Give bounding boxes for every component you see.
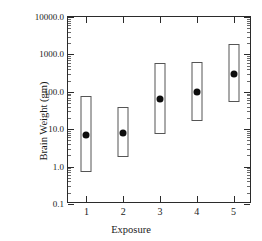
y-axis-minor-tick [247, 111, 250, 112]
y-axis-minor-tick [247, 178, 250, 179]
y-axis-minor-tick [247, 118, 250, 119]
y-axis-minor-tick [247, 186, 250, 187]
y-axis-tick-label: 10000.0 [35, 13, 64, 22]
y-axis-tick-mark [244, 92, 250, 93]
y-axis-minor-tick [247, 168, 250, 169]
y-axis-minor-tick [68, 95, 71, 96]
y-axis-minor-tick [247, 95, 250, 96]
y-axis-minor-tick [247, 28, 250, 29]
y-axis-minor-tick [68, 28, 71, 29]
y-axis-minor-tick [68, 149, 71, 150]
y-axis-minor-tick [247, 63, 250, 64]
y-axis-minor-tick [247, 98, 250, 99]
y-axis-minor-tick [247, 133, 250, 134]
y-axis-tick-mark [244, 167, 250, 168]
y-axis-minor-tick [247, 25, 250, 26]
x-axis-tick-mark [86, 17, 87, 23]
y-axis-tick-mark [68, 92, 74, 93]
x-axis-tick-mark [160, 196, 161, 202]
y-axis-minor-tick [68, 155, 71, 156]
y-axis-tick-mark [244, 17, 250, 18]
y-axis-tick-label: 0.1 [53, 200, 64, 209]
y-axis-tick-label: 1.0 [53, 162, 64, 171]
y-axis-minor-tick [68, 19, 71, 20]
y-axis-minor-tick [68, 133, 71, 134]
y-axis-minor-tick [247, 81, 250, 82]
y-axis-minor-tick [247, 43, 250, 44]
y-axis-minor-tick [247, 135, 250, 136]
y-axis-tick-mark [68, 54, 74, 55]
y-axis-tick-mark [68, 167, 74, 168]
y-axis-minor-tick [68, 63, 71, 64]
x-axis-tick-label: 3 [158, 207, 163, 217]
y-axis-minor-tick [247, 137, 250, 138]
y-axis-minor-tick [68, 23, 71, 24]
y-axis-minor-tick [247, 37, 250, 38]
x-axis-tick-mark [123, 196, 124, 202]
y-axis-tick-mark [68, 204, 74, 205]
x-axis-tick-mark [86, 196, 87, 202]
y-axis-tick-mark [68, 17, 74, 18]
x-axis-tick-label: 4 [194, 207, 199, 217]
y-axis-minor-tick [247, 66, 250, 67]
mean-marker [230, 70, 237, 77]
y-axis-minor-tick [68, 172, 71, 173]
y-axis-minor-tick [247, 56, 250, 57]
y-axis-minor-tick [247, 144, 250, 145]
x-axis-tick-mark [123, 17, 124, 23]
y-axis-minor-tick [68, 21, 71, 22]
y-axis-tick-mark [244, 204, 250, 205]
y-axis-minor-tick [68, 178, 71, 179]
x-axis-tick-mark [197, 196, 198, 202]
y-axis-minor-tick [247, 74, 250, 75]
y-axis-minor-tick [68, 37, 71, 38]
y-axis-tick-mark [68, 129, 74, 130]
y-axis-minor-tick [247, 100, 250, 101]
mean-marker [120, 129, 127, 136]
y-axis-minor-tick [68, 193, 71, 194]
x-axis-tick-label: 5 [231, 207, 236, 217]
y-axis-minor-tick [247, 103, 250, 104]
y-axis-minor-tick [247, 140, 250, 141]
y-axis-minor-tick [68, 131, 71, 132]
y-axis-tick-label: 10.0 [48, 125, 64, 134]
y-axis-minor-tick [68, 94, 71, 95]
x-axis-tick-label: 2 [121, 207, 126, 217]
x-axis-tick-mark [234, 196, 235, 202]
y-axis-minor-tick [247, 181, 250, 182]
y-axis-minor-tick [68, 58, 71, 59]
y-axis-minor-tick [68, 100, 71, 101]
y-axis-tick-mark [244, 54, 250, 55]
y-axis-minor-tick [68, 137, 71, 138]
y-axis-minor-tick [68, 32, 71, 33]
y-axis-minor-tick [247, 60, 250, 61]
y-axis-minor-tick [247, 175, 250, 176]
y-axis-minor-tick [68, 43, 71, 44]
y-axis-tick-mark [244, 129, 250, 130]
y-axis-minor-tick [247, 193, 250, 194]
y-axis-minor-tick [247, 107, 250, 108]
y-axis-minor-tick [68, 74, 71, 75]
y-axis-minor-tick [68, 103, 71, 104]
y-axis-minor-tick [247, 19, 250, 20]
plot-area: 0.11.010.0100.01000.010000.0 12345 [67, 16, 251, 203]
mean-marker [157, 95, 164, 102]
chart-figure: Brain Weight (gm) 0.11.010.0100.01000.01… [0, 0, 262, 241]
y-axis-minor-tick [247, 172, 250, 173]
y-axis-minor-tick [68, 144, 71, 145]
y-axis-minor-tick [247, 170, 250, 171]
y-axis-minor-tick [247, 94, 250, 95]
y-axis-minor-tick [247, 131, 250, 132]
y-axis-minor-tick [68, 118, 71, 119]
y-axis-minor-tick [68, 107, 71, 108]
mean-marker [193, 88, 200, 95]
y-axis-minor-tick [247, 23, 250, 24]
y-axis-minor-tick [68, 140, 71, 141]
y-axis-minor-tick [68, 175, 71, 176]
mean-marker [83, 131, 90, 138]
y-axis-tick-label: 100.0 [44, 87, 64, 96]
y-axis-minor-tick [68, 66, 71, 67]
y-axis-minor-tick [68, 56, 71, 57]
x-axis-tick-mark [197, 17, 198, 23]
y-axis-minor-tick [68, 98, 71, 99]
